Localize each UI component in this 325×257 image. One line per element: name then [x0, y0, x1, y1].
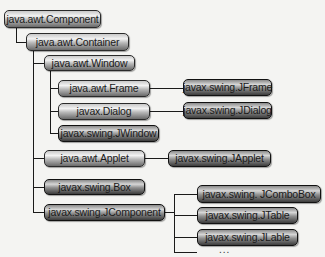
node-java-awt-container: java.awt.Container [26, 33, 129, 51]
node-javax-swing-jwindow: javax.swing.JWindow [58, 125, 159, 142]
node-javax-swing-box: javax.swing.Box [44, 179, 145, 195]
node-java-awt-applet: java.awt.Applet [44, 150, 145, 167]
node-javax-swing-japplet: javax.swing.JApplet [168, 150, 271, 167]
node-java-awt-frame: java.awt.Frame [58, 80, 150, 97]
connector-line [174, 215, 197, 216]
connector-line [16, 27, 17, 43]
node-javax-swing-jtable: javax.swing.JTable [197, 207, 298, 224]
connector-line [33, 158, 44, 159]
node-javax-swing-jcombobox: javax.swing. JComboBox [197, 185, 321, 203]
node-javax-swing-jframe: javax.swing.JFrame [183, 79, 272, 96]
connector-line [165, 212, 174, 213]
node-java-awt-window: java.awt.Window [44, 55, 135, 71]
connector-line [174, 194, 175, 252]
connector-line [174, 194, 197, 195]
connector-line [150, 111, 183, 112]
connector-line [50, 133, 58, 134]
connector-line [50, 111, 58, 112]
node-javax-swing-jlable: javax.swing.JLable [197, 229, 298, 246]
connector-line [145, 158, 168, 159]
connector-line [50, 88, 58, 89]
connector-line [150, 88, 183, 89]
connector-line [174, 237, 197, 238]
connector-line [33, 51, 34, 213]
more-children-ellipsis: ... [219, 244, 230, 255]
connector-line [174, 252, 197, 253]
class-hierarchy-diagram: java.awt.Component java.awt.Container ja… [0, 0, 325, 257]
connector-line [33, 63, 44, 64]
node-javax-swing-jdialog: javax.swing.JDialog [183, 102, 272, 119]
node-javax-swing-jcomponent: javax.swing.JComponent [44, 204, 165, 221]
connector-line [33, 212, 44, 213]
connector-line [50, 70, 51, 134]
connector-line [33, 187, 44, 188]
node-java-awt-component: java.awt.Component [4, 10, 101, 28]
node-javax-dialog: javax.Dialog [58, 103, 150, 120]
